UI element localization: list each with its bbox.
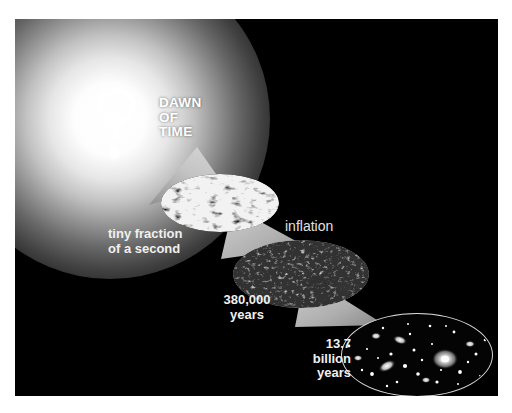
tiny-fraction-label: tiny fraction of a second [108, 227, 182, 256]
figure-canvas: DAWN OF TIME tiny fraction of a second i… [15, 19, 498, 396]
question-mark-icon [87, 87, 145, 163]
inflation-label: inflation [285, 219, 333, 235]
dawn-of-time-label: DAWN OF TIME [159, 96, 201, 140]
figure-root: DAWN OF TIME tiny fraction of a second i… [0, 0, 512, 413]
galaxies-ellipse [341, 313, 493, 396]
years-380000-label: 380,000 years [201, 293, 293, 322]
years-13-7-billion-label: 13.7 billion years [273, 337, 351, 381]
quantum-foam-ellipse [161, 174, 279, 232]
